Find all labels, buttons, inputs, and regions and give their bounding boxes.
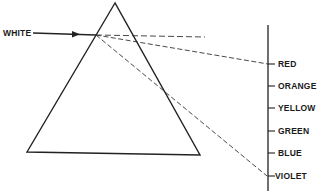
spectrum-label-violet: VIOLET <box>275 171 307 181</box>
undeviated-ray <box>96 35 205 37</box>
spectrum-label-green: GREEN <box>278 126 309 136</box>
spectrum-label-orange: ORANGE <box>278 81 317 91</box>
prism <box>27 3 200 155</box>
spectrum-ticks <box>268 64 275 176</box>
white-label: WHITE <box>3 28 31 38</box>
white-light-ray <box>33 33 96 35</box>
prism-diagram <box>0 0 319 194</box>
spectrum-label-red: RED <box>278 59 297 69</box>
red-ray <box>96 35 268 64</box>
arrow-head-icon <box>72 31 80 38</box>
spectrum-label-blue: BLUE <box>278 148 302 158</box>
spectrum-label-yellow: YELLOW <box>278 103 316 113</box>
